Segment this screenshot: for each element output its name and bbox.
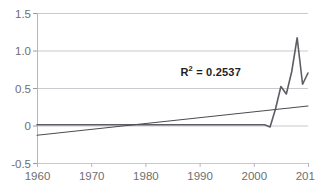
y-axis-tick-label: 1.0 xyxy=(15,45,31,57)
trendline-series xyxy=(37,106,308,135)
x-axis-tick-label: 1970 xyxy=(79,170,105,182)
x-axis-tick-label: 1990 xyxy=(187,170,213,182)
r-squared-annotation: R2 = 0.2537 xyxy=(180,64,241,78)
x-axis-tick-label: 1960 xyxy=(25,170,51,182)
x-axis-tick-label: 1980 xyxy=(133,170,159,182)
y-axis-tick-label: 0 xyxy=(25,120,31,132)
y-axis-tick-label: -0.5 xyxy=(11,158,31,170)
x-axis-tick-label: 2000 xyxy=(242,170,268,182)
chart-container: 1.51.00.50-0.5196019701980199020002010 R… xyxy=(0,0,315,191)
x-axis-tick-label: 2010 xyxy=(296,170,315,182)
r2-value: = 0.2537 xyxy=(196,65,241,77)
chart-plot-area: 1.51.00.50-0.5196019701980199020002010 xyxy=(0,0,315,191)
r2-base: R xyxy=(180,65,188,77)
r2-exponent: 2 xyxy=(189,64,193,73)
y-axis-tick-label: 0.5 xyxy=(15,83,31,95)
y-axis-tick-label: 1.5 xyxy=(15,8,31,20)
